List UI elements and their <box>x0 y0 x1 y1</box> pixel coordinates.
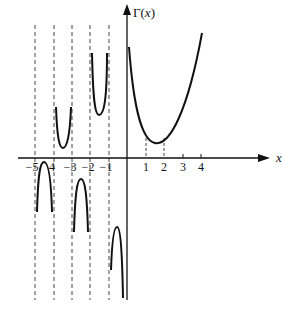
svg-text:4: 4 <box>198 160 204 174</box>
guide-lines <box>146 138 164 158</box>
svg-text:1: 1 <box>143 160 149 174</box>
svg-text:−1: −1 <box>100 160 113 174</box>
svg-text:2: 2 <box>161 160 167 174</box>
x-axis-arrow-icon <box>258 154 270 162</box>
x-tick-labels: −5 4 −3 −2 −1 1 2 3 4 <box>26 160 204 174</box>
branch-minus3-minus2 <box>74 179 88 232</box>
branch-minus1-0 <box>111 227 123 298</box>
x-axis-label: x <box>275 150 282 165</box>
y-axis-label: Γ(x) <box>133 5 155 20</box>
branch-minus2-minus1 <box>92 53 107 115</box>
y-axis-arrow-icon <box>123 4 131 15</box>
svg-text:4: 4 <box>49 160 55 174</box>
axes <box>18 12 262 300</box>
svg-text:3: 3 <box>180 160 186 174</box>
branch-positive <box>129 33 202 143</box>
branch-minus4-minus3 <box>56 107 71 148</box>
gamma-function-plot: −5 4 −3 −2 −1 1 2 3 4 x Γ(x) <box>0 0 283 311</box>
svg-text:−2: −2 <box>82 160 95 174</box>
svg-text:−3: −3 <box>64 160 77 174</box>
gamma-curves <box>37 33 202 298</box>
svg-text:−5: −5 <box>26 160 39 174</box>
